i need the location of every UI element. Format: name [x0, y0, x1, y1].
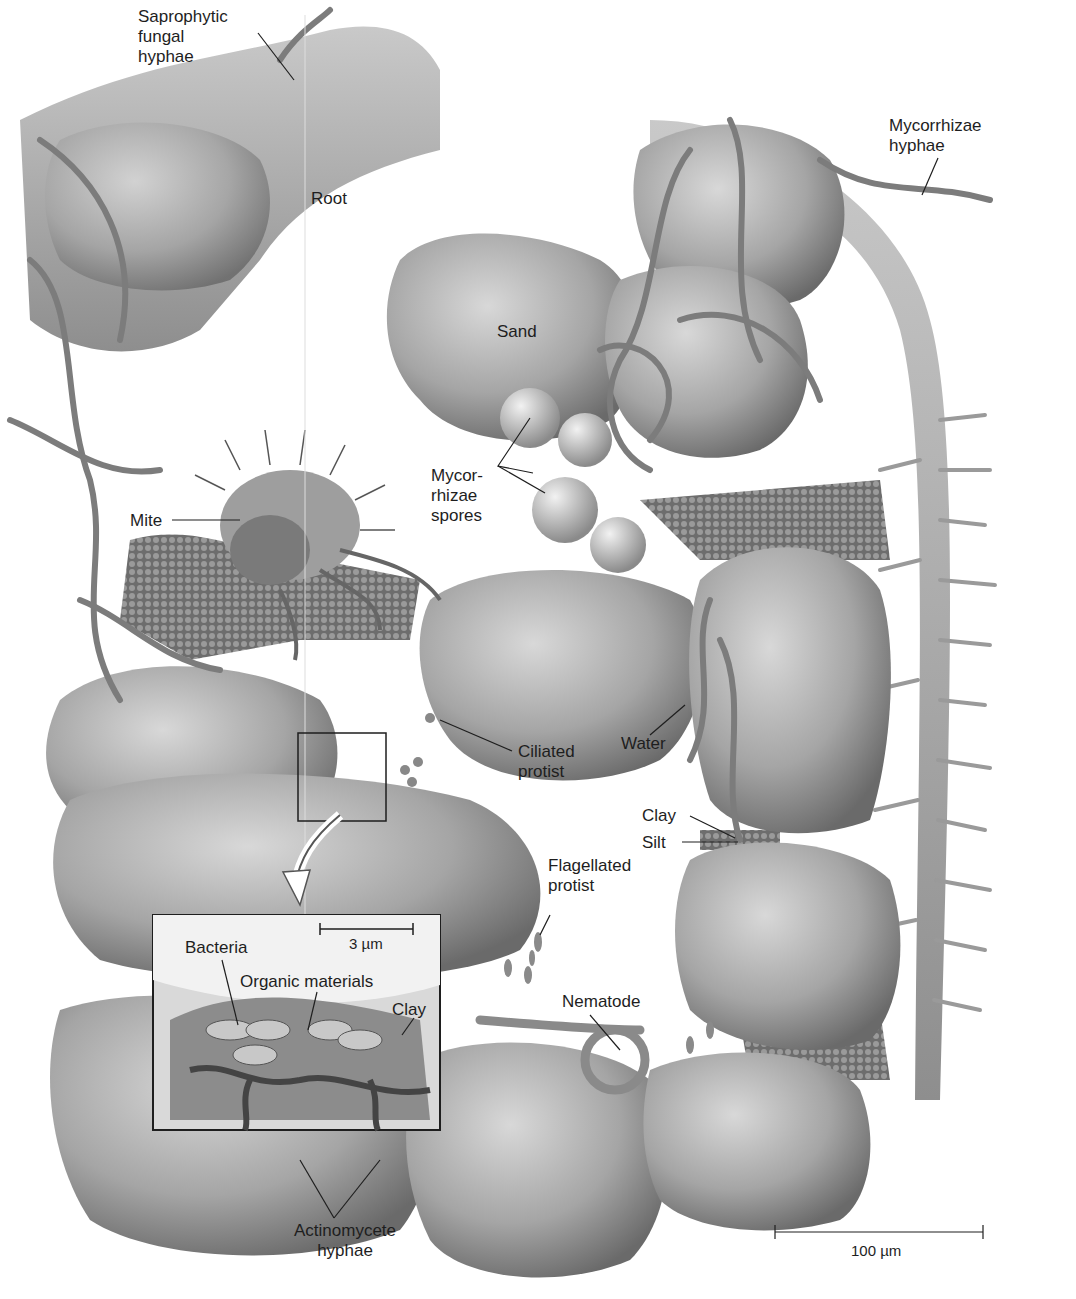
inset-label-clay: Clay: [392, 1000, 426, 1020]
label-silt: Silt: [642, 833, 666, 853]
inset-label-bacteria: Bacteria: [185, 938, 247, 958]
label-actinomycete-hyphae: Actinomycete hyphae: [294, 1221, 396, 1261]
label-ciliated-protist: Ciliated protist: [518, 742, 575, 782]
label-flagellated-protist: Flagellated protist: [548, 856, 631, 896]
label-sand: Sand: [497, 322, 537, 342]
label-saprophytic-fungal-hyphae: Saprophytic fungal hyphae: [138, 7, 228, 67]
inset-scale-bar-label: 3 µm: [349, 935, 383, 952]
soil-illustration: [0, 0, 1076, 1299]
label-mycorrhizae-hyphae: Mycorrhizae hyphae: [889, 116, 982, 156]
scale-bar-label: 100 µm: [851, 1242, 901, 1259]
label-mite: Mite: [130, 511, 162, 531]
label-clay: Clay: [642, 806, 676, 826]
label-nematode: Nematode: [562, 992, 640, 1012]
label-root: Root: [311, 189, 347, 209]
inset-label-organic-materials: Organic materials: [240, 972, 373, 992]
label-water: Water: [621, 734, 666, 754]
label-mycorrhizae-spores: Mycor- rhizae spores: [431, 466, 483, 526]
